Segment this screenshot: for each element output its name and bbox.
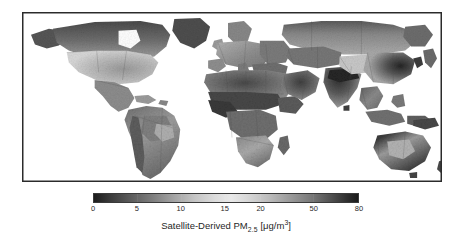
cb-tick-10: 10 [177, 204, 185, 214]
colorbar-axis-label: Satellite-Derived PM2.5 [μg/m3] [93, 219, 359, 233]
colorbar-gradient [94, 194, 358, 202]
cb-tick-50: 50 [310, 204, 318, 214]
cb-tick-80: 80 [355, 204, 363, 214]
cb-tick-20: 20 [256, 204, 264, 214]
cb-tick-15: 15 [220, 204, 228, 214]
figure-root: 0 5 10 15 20 50 80 Satellite-Derived PM2… [0, 0, 459, 243]
colorbar-tick-labels: 0 5 10 15 20 50 80 [93, 204, 359, 216]
cb-tick-0: 0 [91, 204, 95, 214]
cb-label-subscript: 2.5 [248, 226, 258, 233]
world-map-image [23, 13, 441, 181]
colorbar-group: 0 5 10 15 20 50 80 Satellite-Derived PM2… [93, 193, 359, 241]
world-map-panel [22, 12, 442, 182]
cb-tick-5: 5 [135, 204, 139, 214]
cb-label-unit-close: ] [288, 220, 291, 231]
colorbar [93, 193, 359, 203]
cb-label-main: Satellite-Derived PM [161, 220, 248, 231]
cb-label-unit-open: [μg/m [260, 220, 284, 231]
